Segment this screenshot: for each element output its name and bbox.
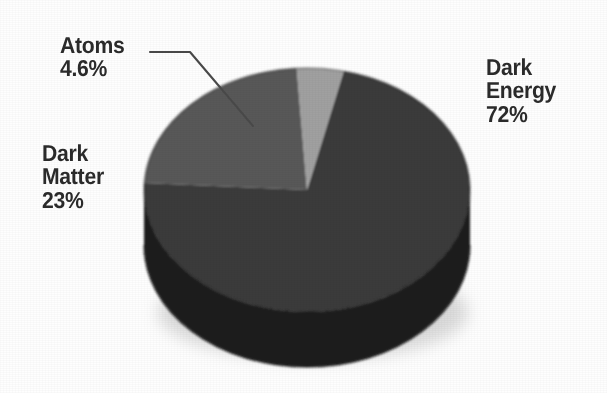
label-dark-matter: Dark Matter 23% [42, 142, 109, 212]
pie-chart-figure: Atoms 4.6% Dark Matter 23% Dark Energy 7… [0, 0, 607, 393]
label-atoms: Atoms 4.6% [60, 34, 130, 81]
label-dark-energy: Dark Energy 72% [486, 56, 562, 126]
label-dark-matter-line1: Dark [42, 142, 104, 165]
label-dark-matter-line2: Matter [42, 165, 104, 188]
label-atoms-line2: 4.6% [60, 57, 124, 80]
label-dark-energy-line2: Energy [486, 79, 556, 102]
label-dark-matter-line3: 23% [42, 189, 104, 212]
label-dark-energy-line3: 72% [486, 103, 556, 126]
label-atoms-line1: Atoms [60, 34, 124, 57]
pie-slice-dark-matter [144, 68, 307, 190]
label-dark-energy-line1: Dark [486, 56, 556, 79]
